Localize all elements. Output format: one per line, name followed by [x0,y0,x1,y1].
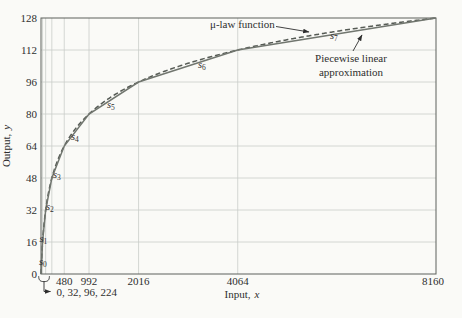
y-tick-label: 64 [26,140,38,152]
x-tick-label: 2016 [128,275,151,287]
segment-label: s2 [46,201,54,214]
mu-law-function-label: μ-law function [210,18,275,30]
y-tick-label: 80 [26,108,38,120]
y-axis-title: Output,y [0,125,12,167]
segment-label: s7 [330,30,338,43]
origin-pointer-arrow [44,282,51,292]
origin-ticks-label: 0, 32, 96, 224 [57,286,118,298]
segment-label: s3 [53,169,61,182]
y-tick-label: 112 [21,44,37,56]
x-axis-title: Input,x [225,288,260,300]
y-axis-tick-labels: 0163248648096112128 [21,12,38,280]
y-tick-label: 32 [26,204,37,216]
segment-label: s4 [71,131,79,144]
y-tick-label: 128 [21,12,38,24]
y-tick-label: 16 [26,236,38,248]
y-tick-label: 48 [26,172,38,184]
origin-brace [39,276,50,281]
y-tick-label: 0 [32,268,38,280]
piecewise-label-line1: Piecewise linear [315,52,387,64]
piecewise-label-line2: approximation [319,66,384,78]
y-tick-label: 96 [26,76,38,88]
mu-law-chart: 0163248648096112128 480992201640648160 s… [0,0,462,318]
mu-law-arrow [276,27,309,33]
x-tick-label: 4064 [227,275,250,287]
piecewise-arrow [353,35,362,51]
segment-label: s5 [107,99,115,112]
x-tick-label: 8160 [422,275,445,287]
